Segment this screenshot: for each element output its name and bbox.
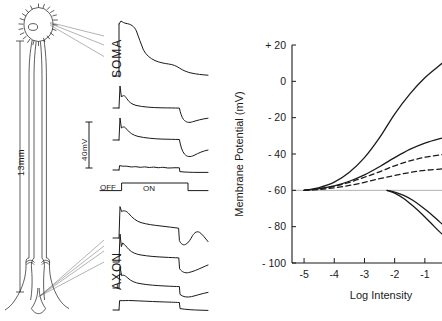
y-axis: + 200- 20- 40- 60- 80- 100 [262,39,296,269]
curve-hyperpolarizing-outer [387,190,442,239]
axon-label: AXON [110,252,124,290]
soma-traces [113,21,208,172]
y-tick-label: - 60 [268,184,286,196]
stimulus-on-label: ON [143,184,155,193]
curve-hyperpolarizing-inner [387,190,442,229]
curve-soma-depolarizing-medium [304,137,442,191]
soma-microvilli [19,4,58,46]
y-tick-label: 0 [280,75,286,87]
intensity-response-chart: + 200- 20- 40- 60- 80- 100 -5-4-3-2-1 Me… [221,0,442,321]
voltage-scale-label: 40mV [80,138,89,161]
y-tick-label: + 20 [265,39,286,51]
figure-root: 13mm SOMA AXON 40mV OFF ON + 200- 20- 40… [0,0,442,321]
soma-body [19,4,58,46]
axon-pointer-lines [38,240,104,297]
y-tick-label: - 80 [268,220,286,232]
x-tick-label: -3 [360,268,369,280]
axon-traces [113,207,208,311]
y-tick-label: - 20 [268,111,286,123]
x-tick-label: -1 [420,268,429,280]
x-tick-label: -4 [330,268,339,280]
stimulus-off-label: OFF [100,183,116,192]
soma-label: SOMA [110,39,124,78]
curve-axon-depolarizing-dashed-upper [304,154,442,190]
neuron-diagram-panel: 13mm SOMA AXON 40mV OFF ON [0,0,221,321]
y-tick-label: - 40 [268,148,286,160]
x-axis: -5-4-3-2-1 [292,258,442,280]
soma-pointer-lines [50,23,104,57]
scale-label-13mm: 13mm [16,149,26,176]
x-tick-label: -5 [299,268,308,280]
chart-svg: + 200- 20- 40- 60- 80- 100 -5-4-3-2-1 Me… [221,0,442,321]
x-tick-label: -2 [390,268,399,280]
x-axis-title: Log Intensity [350,289,413,301]
y-axis-title: Membrane Potential (mV) [233,91,245,216]
y-tick-label: - 100 [262,257,286,269]
chart-curves [304,58,442,240]
neurite-shafts [29,40,46,258]
